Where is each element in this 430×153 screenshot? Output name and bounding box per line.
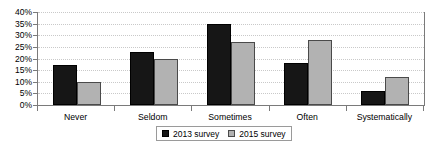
y-axis-tick-label: 0% [0, 101, 32, 110]
bar-sometimes-2013 [207, 24, 231, 105]
bar-systematically-2013 [361, 91, 385, 105]
bar-often-2015 [308, 40, 332, 105]
x-axis-category-label: Often [297, 111, 318, 123]
bar-group [284, 12, 332, 105]
bars-layer [38, 12, 424, 105]
bar-sometimes-2015 [231, 42, 255, 105]
bar-group [53, 12, 101, 105]
bar-often-2013 [284, 63, 308, 105]
bar-systematically-2015 [385, 77, 409, 105]
y-axis-tick-label: 40% [0, 8, 32, 17]
bar-chart: 0%5%10%15%20%25%30%35%40% NeverSeldomSom… [0, 0, 430, 153]
y-axis: 0%5%10%15%20%25%30%35%40% [0, 6, 32, 111]
y-axis-tick-label: 35% [0, 19, 32, 28]
bar-group [361, 12, 409, 105]
bar-group [130, 12, 178, 105]
legend: 2013 survey2015 survey [156, 126, 292, 141]
y-axis-tick-label: 5% [0, 89, 32, 98]
legend-item: 2015 survey [228, 129, 285, 139]
x-axis-category-label: Sometimes [208, 111, 251, 123]
x-axis-category-label: Never [64, 111, 87, 123]
legend-swatch-icon [162, 130, 169, 137]
x-axis-category-label: Systematically [357, 111, 413, 123]
y-axis-tick-label: 10% [0, 77, 32, 86]
bar-seldom-2013 [130, 52, 154, 105]
y-axis-tick-label: 20% [0, 54, 32, 63]
y-axis-tick-label: 25% [0, 42, 32, 51]
legend-swatch-icon [228, 130, 235, 137]
x-axis-category-label: Seldom [138, 111, 167, 123]
y-axis-tick-label: 30% [0, 31, 32, 40]
y-axis-tick-label: 15% [0, 66, 32, 75]
bar-group [207, 12, 255, 105]
legend-item: 2013 survey [162, 129, 219, 139]
legend-label: 2013 survey [173, 129, 219, 139]
bar-seldom-2015 [154, 59, 178, 106]
plot-area [37, 12, 425, 106]
legend-label: 2015 survey [239, 129, 285, 139]
bar-never-2013 [53, 65, 77, 105]
x-axis: NeverSeldomSometimesOftenSystematically [37, 111, 425, 125]
bar-never-2015 [77, 82, 101, 105]
